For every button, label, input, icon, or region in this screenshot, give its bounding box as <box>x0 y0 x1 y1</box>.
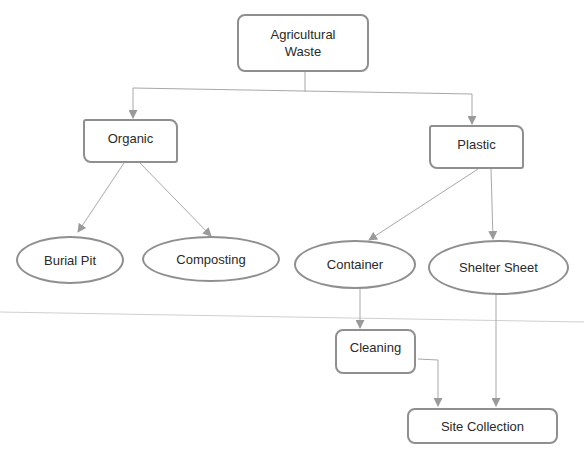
node-agricultural-waste: Agricultural Waste <box>237 14 369 72</box>
node-composting: Composting <box>142 236 280 282</box>
node-organic: Organic <box>83 119 178 163</box>
node-label: Cleaning <box>350 339 401 356</box>
node-cleaning: Cleaning <box>335 329 416 374</box>
node-label: Container <box>327 256 383 273</box>
node-container: Container <box>294 240 416 289</box>
node-burial-pit: Burial Pit <box>16 236 124 284</box>
node-shelter-sheet: Shelter Sheet <box>428 240 569 295</box>
node-site-collection: Site Collection <box>407 408 558 444</box>
node-plastic: Plastic <box>429 125 524 169</box>
node-label: Organic <box>108 130 154 147</box>
node-label: Composting <box>176 251 245 268</box>
node-label: Burial Pit <box>44 252 96 269</box>
node-label: Shelter Sheet <box>459 259 538 276</box>
node-label: Site Collection <box>441 418 524 435</box>
node-label: Agricultural <box>270 26 335 43</box>
node-label: Plastic <box>457 136 495 153</box>
node-label: Waste <box>285 43 321 60</box>
